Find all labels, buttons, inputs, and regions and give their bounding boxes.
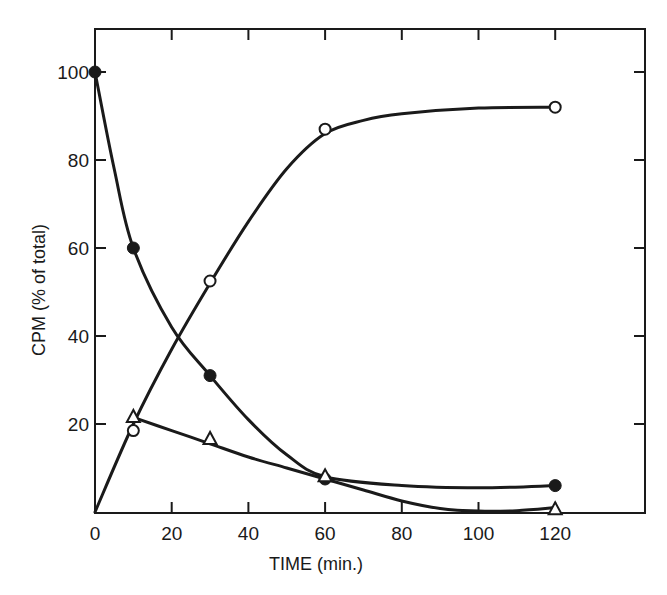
y-tick-labels: 20406080100 (57, 62, 89, 435)
series-line-open-triangle (133, 417, 555, 511)
y-tick-label: 20 (68, 414, 89, 435)
y-tick-label: 40 (68, 326, 89, 347)
plot-frame (95, 29, 645, 513)
data-point-open-circle (320, 124, 331, 135)
data-point-open-triangle (204, 432, 217, 444)
x-tick-label: 40 (238, 523, 259, 544)
y-tick-label: 80 (68, 150, 89, 171)
data-point-filled-circle (549, 480, 561, 492)
data-point-open-circle (205, 276, 216, 287)
axis-ticks (95, 29, 645, 513)
x-tick-label: 20 (161, 523, 182, 544)
x-tick-label: 80 (391, 523, 412, 544)
data-point-filled-circle (127, 242, 139, 254)
y-tick-label: 100 (57, 62, 89, 83)
x-axis-title: TIME (min.) (269, 554, 363, 574)
series-markers (89, 66, 562, 514)
series-line-open-circle (95, 107, 555, 512)
x-tick-label: 60 (315, 523, 336, 544)
data-point-filled-circle (89, 66, 101, 78)
data-point-filled-circle (204, 370, 216, 382)
x-tick-label: 120 (539, 523, 571, 544)
data-point-open-circle (550, 102, 561, 113)
y-tick-label: 60 (68, 238, 89, 259)
data-point-open-circle (128, 425, 139, 436)
y-axis-title: CPM (% of total) (29, 224, 49, 356)
x-tick-label: 0 (90, 523, 101, 544)
x-tick-label: 100 (463, 523, 495, 544)
series-curves (95, 72, 555, 512)
chart: 020406080100120 20406080100 TIME (min.) … (0, 0, 667, 595)
x-tick-labels: 020406080100120 (90, 523, 571, 544)
